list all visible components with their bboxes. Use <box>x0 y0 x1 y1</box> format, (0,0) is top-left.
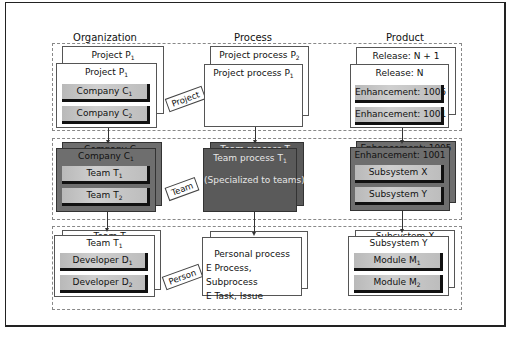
arrow-down-icon <box>253 140 257 144</box>
arrow-down-icon <box>106 140 110 144</box>
team-process-front-title: Team process T <box>213 153 283 163</box>
enhancement-1001-pill: Enhancement: 1001 <box>355 107 444 125</box>
team-product-front-title: Enhancement: 1001 <box>351 150 449 160</box>
personal-process-line-3: E Task, Issue <box>203 289 301 303</box>
personal-process-line-2: E Process, Subprocess <box>203 261 301 289</box>
project-product-back-title: Release: N + 1 <box>357 51 455 61</box>
team-process-front-card: Team process T1 (Specialized to teams) <box>203 148 297 212</box>
team-org-front-card: Company C1 Team T1 Team T2 <box>56 148 156 212</box>
developer-d1-pill: Developer D1 <box>60 253 148 271</box>
project-org-front-title: Project P <box>85 67 124 77</box>
module-m1-pill: Module M1 <box>354 253 443 271</box>
project-product-front-title: Release: N <box>351 68 448 78</box>
person-product-front-title: Subsystem Y <box>349 238 448 248</box>
project-process-front-card: Project process P1 <box>204 64 303 127</box>
column-title-product: Product <box>350 32 460 43</box>
connector-product-team-person <box>402 211 403 231</box>
column-title-process: Process <box>198 32 308 43</box>
company-c2-pill: Company C2 <box>62 106 150 124</box>
personal-process-title: Personal process <box>203 247 301 261</box>
team-product-front-card: Enhancement: 1001 Subsystem X Subsystem … <box>350 147 450 211</box>
team-t2-pill: Team T2 <box>62 188 150 206</box>
project-org-back-title: Project P <box>92 50 131 60</box>
enhancement-1005-pill: Enhancement: 1005 <box>355 85 444 103</box>
person-process-front-card: Personal process E Process, Subprocess E… <box>202 237 302 296</box>
company-c1-pill: Company C1 <box>62 84 150 102</box>
person-org-front-card: Team T1 Developer D1 Developer D2 <box>54 235 155 297</box>
developer-d2-pill: Developer D2 <box>60 275 148 293</box>
module-m2-pill: Module M2 <box>354 275 443 293</box>
project-product-front-card: Release: N Enhancement: 1005 Enhancement… <box>350 64 449 128</box>
arrow-down-icon <box>252 232 256 236</box>
subsystem-y-pill: Subsystem Y <box>355 187 444 205</box>
project-org-front-card: Project P1 Company C1 Company C2 <box>56 63 157 128</box>
project-process-front-title: Project process P <box>213 68 290 78</box>
team-t1-pill: Team T1 <box>62 166 150 184</box>
person-org-front-title: Team T <box>87 238 119 248</box>
team-process-note: (Specialized to teams) <box>204 175 296 185</box>
arrow-down-icon <box>400 229 404 233</box>
column-title-organization: Organization <box>50 32 160 43</box>
arrow-down-icon <box>400 140 404 144</box>
person-product-front-card: Subsystem Y Module M1 Module M2 <box>348 236 449 296</box>
arrow-down-icon <box>105 228 109 232</box>
subsystem-x-pill: Subsystem X <box>355 165 444 183</box>
team-org-front-title: Company C <box>78 151 130 161</box>
connector-process-team-person <box>254 212 255 234</box>
project-process-back-title: Project process P <box>219 50 296 60</box>
